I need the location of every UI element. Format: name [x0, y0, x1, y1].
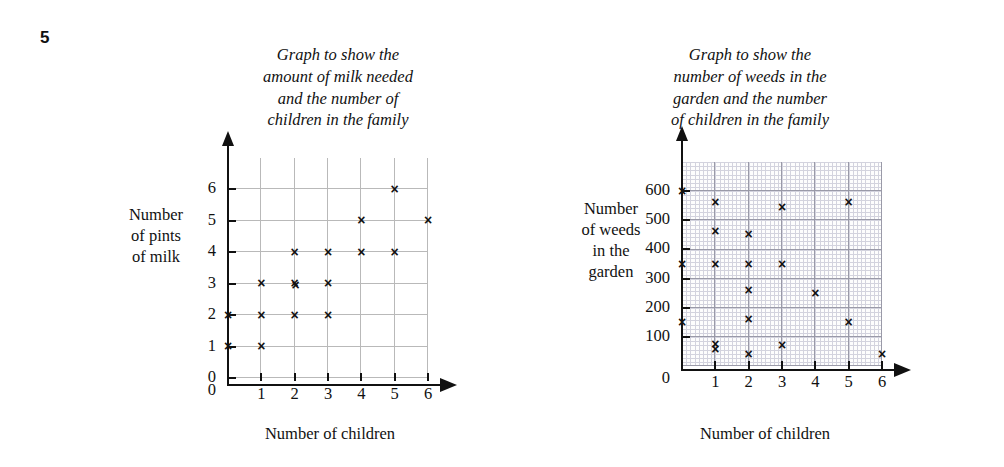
y-tick-label: 500 — [628, 209, 670, 229]
x-tick-label: 3 — [314, 384, 342, 404]
x-tick-label: 3 — [768, 372, 796, 392]
data-point — [809, 287, 822, 300]
data-point — [222, 340, 235, 353]
x-tick — [814, 361, 816, 369]
y-tick — [681, 248, 690, 250]
data-point — [255, 277, 268, 290]
data-point — [742, 284, 755, 297]
data-point — [742, 348, 755, 361]
data-point — [709, 258, 722, 271]
data-point — [876, 348, 889, 361]
x-tick-label: 2 — [281, 384, 309, 404]
data-point — [709, 196, 722, 209]
y-tick-label: 100 — [628, 326, 670, 346]
y-tick-label: 1 — [200, 336, 216, 356]
y-axis-arrow-weeds — [676, 126, 688, 141]
origin-label: 0 — [200, 380, 216, 400]
x-tick-label: 5 — [835, 372, 863, 392]
worksheet-page: 5 Graph to show the amount of milk neede… — [0, 0, 1004, 467]
x-tick-label: 4 — [347, 384, 375, 404]
x-tick-label: 4 — [801, 372, 829, 392]
data-point — [422, 214, 435, 227]
data-point — [255, 340, 268, 353]
data-point — [676, 258, 689, 271]
x-tick — [427, 373, 429, 381]
data-point — [709, 343, 722, 356]
x-tick-label: 5 — [381, 384, 409, 404]
data-point — [776, 339, 789, 352]
data-point — [676, 316, 689, 329]
chart-panel-weeds: Graph to show the number of weeds in the… — [500, 0, 1004, 467]
x-axis-arrow-weeds — [894, 363, 911, 377]
x-tick — [394, 373, 396, 381]
y-axis-arrow-milk — [222, 131, 234, 146]
y-axis-label-milk: Number of pints of milk — [108, 204, 204, 267]
x-axis-line-weeds — [681, 369, 896, 371]
x-tick — [360, 373, 362, 381]
data-point — [776, 201, 789, 214]
data-point — [322, 309, 335, 322]
x-tick-label: 1 — [701, 372, 729, 392]
data-point — [355, 214, 368, 227]
x-axis-label-weeds: Number of children — [650, 424, 880, 444]
y-tick-label: 600 — [628, 180, 670, 200]
y-tick-label: 2 — [200, 304, 216, 324]
x-tick-label: 6 — [868, 372, 896, 392]
data-point — [222, 309, 235, 322]
y-tick-label: 6 — [200, 178, 216, 198]
x-tick-label: 2 — [735, 372, 763, 392]
data-point — [388, 183, 401, 196]
x-tick — [327, 373, 329, 381]
x-tick — [781, 361, 783, 369]
data-point — [676, 185, 689, 198]
chart-title-milk: Graph to show the amount of milk needed … — [218, 44, 458, 131]
x-tick-label: 6 — [414, 384, 442, 404]
y-tick — [227, 377, 236, 379]
data-point — [842, 196, 855, 209]
data-point — [322, 277, 335, 290]
y-tick — [681, 307, 690, 309]
y-tick-label: 4 — [200, 241, 216, 261]
y-tick-label: 3 — [200, 273, 216, 293]
x-tick — [881, 361, 883, 369]
x-axis-label-milk: Number of children — [215, 424, 445, 444]
x-tick — [294, 373, 296, 381]
data-point — [289, 279, 302, 292]
x-tick — [748, 361, 750, 369]
data-point — [842, 316, 855, 329]
x-tick — [848, 361, 850, 369]
y-tick — [227, 283, 236, 285]
data-point — [742, 228, 755, 241]
chart-panel-milk: Graph to show the amount of milk needed … — [0, 0, 520, 467]
y-tick — [227, 251, 236, 253]
x-axis-arrow-milk — [440, 378, 457, 392]
y-tick — [227, 188, 236, 190]
y-tick — [681, 336, 690, 338]
x-tick — [714, 361, 716, 369]
y-tick-label: 300 — [628, 268, 670, 288]
data-point — [742, 258, 755, 271]
data-point — [709, 225, 722, 238]
data-point — [388, 246, 401, 259]
data-point — [288, 309, 301, 322]
y-tick-label: 5 — [200, 210, 216, 230]
y-tick-label: 200 — [628, 297, 670, 317]
data-point — [776, 258, 789, 271]
data-point — [255, 309, 268, 322]
y-tick — [681, 278, 690, 280]
data-point — [742, 313, 755, 326]
data-point — [355, 246, 368, 259]
data-point — [288, 246, 301, 259]
data-point — [322, 246, 335, 259]
y-tick — [227, 220, 236, 222]
y-tick — [681, 219, 690, 221]
origin-label: 0 — [628, 368, 670, 388]
chart-title-weeds: Graph to show the number of weeds in the… — [625, 44, 875, 131]
y-tick-label: 400 — [628, 238, 670, 258]
x-tick-label: 1 — [247, 384, 275, 404]
x-tick — [260, 373, 262, 381]
